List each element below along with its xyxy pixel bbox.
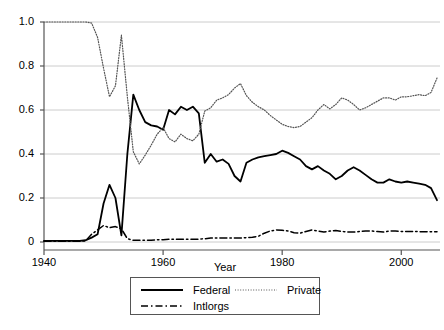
x-axis-title: Year (195, 262, 255, 273)
series-paths-group (44, 22, 437, 241)
legend-swatch-dotted-icon (233, 285, 279, 295)
y-tick-label: 0.4 (6, 148, 34, 159)
series-line-intlorgs (44, 226, 437, 242)
legend-swatch-dashdot-icon (139, 301, 185, 311)
x-tick-label: 1960 (143, 257, 183, 268)
series-line-private (44, 22, 437, 164)
chart-legend: Federal Private Intlorgs (130, 277, 320, 315)
y-tick-label: 0.8 (6, 60, 34, 71)
legend-label-private: Private (287, 285, 321, 296)
axes-group (44, 22, 440, 250)
y-tick-label: 0 (6, 236, 34, 247)
legend-label-intlorgs: Intlorgs (193, 301, 229, 312)
legend-swatch-solid-icon (139, 285, 185, 295)
x-tick-label: 2000 (381, 257, 421, 268)
y-tick-label: 1.0 (6, 16, 34, 27)
series-line-federal (44, 95, 437, 241)
chart-figure: 00.20.40.60.81.0 1940196019802000 Year F… (0, 0, 444, 330)
x-tick-label: 1940 (24, 257, 64, 268)
y-tick-label: 0.2 (6, 192, 34, 203)
x-tick-label: 1980 (262, 257, 302, 268)
legend-entry-federal: Federal (139, 282, 230, 298)
legend-entry-intlorgs: Intlorgs (139, 298, 229, 314)
ticks-group (40, 22, 401, 255)
legend-entry-private: Private (233, 282, 321, 298)
legend-label-federal: Federal (193, 285, 230, 296)
y-tick-label: 0.6 (6, 104, 34, 115)
